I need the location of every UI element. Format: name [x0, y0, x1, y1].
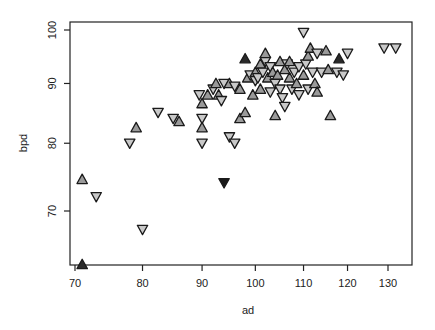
triangle-down-marker: [91, 193, 101, 202]
triangle-down-marker: [219, 179, 229, 188]
triangle-down-marker: [379, 44, 389, 53]
triangle-down-marker: [342, 49, 352, 58]
y-tick-label: 100: [46, 21, 58, 39]
x-tick-label: 100: [246, 277, 264, 289]
triangle-down-marker: [275, 85, 285, 94]
y-tick-label: 90: [46, 77, 58, 89]
triangle-up-marker: [240, 107, 250, 116]
x-tick-label: 110: [295, 277, 313, 289]
triangle-down-marker: [391, 44, 401, 53]
x-tick-label: 80: [136, 277, 148, 289]
x-tick-label: 90: [196, 277, 208, 289]
triangle-up-marker: [77, 174, 87, 183]
triangle-down-marker: [298, 28, 308, 37]
triangle-up-marker: [270, 110, 280, 119]
y-axis-title: bpd: [17, 134, 29, 152]
triangle-down-marker: [197, 139, 207, 148]
triangle-down-marker: [280, 102, 290, 111]
triangle-down-marker: [137, 225, 147, 234]
triangle-down-marker: [307, 68, 317, 77]
triangle-down-marker: [265, 88, 275, 97]
triangle-down-marker: [153, 108, 163, 117]
triangle-up-marker: [260, 48, 270, 57]
triangle-up-marker: [131, 122, 141, 131]
x-tick-label: 120: [338, 277, 356, 289]
triangle-up-marker: [240, 54, 250, 63]
triangle-up-marker: [77, 259, 87, 268]
triangle-down-marker: [230, 139, 240, 148]
x-tick-label: 70: [69, 277, 81, 289]
triangle-up-marker: [334, 54, 344, 63]
triangle-up-marker: [325, 110, 335, 119]
x-tick-label: 130: [379, 277, 397, 289]
triangle-up-marker: [255, 84, 265, 93]
scatter-chart: 708090100110120130 708090100 ad bpd: [0, 0, 435, 330]
plot-frame: [70, 22, 412, 265]
triangle-up-marker: [197, 122, 207, 131]
y-tick-label: 70: [46, 205, 58, 217]
triangle-down-marker: [125, 139, 135, 148]
x-axis: 708090100110120130: [69, 265, 397, 289]
triangle-up-marker: [310, 78, 320, 87]
triangle-down-marker: [294, 91, 304, 100]
triangle-down-marker: [277, 94, 287, 103]
data-points: [77, 28, 401, 268]
x-axis-title: ad: [242, 304, 254, 316]
triangle-down-marker: [338, 71, 348, 80]
y-tick-label: 80: [46, 137, 58, 149]
y-axis: 708090100: [46, 21, 70, 217]
triangle-down-marker: [216, 97, 226, 106]
